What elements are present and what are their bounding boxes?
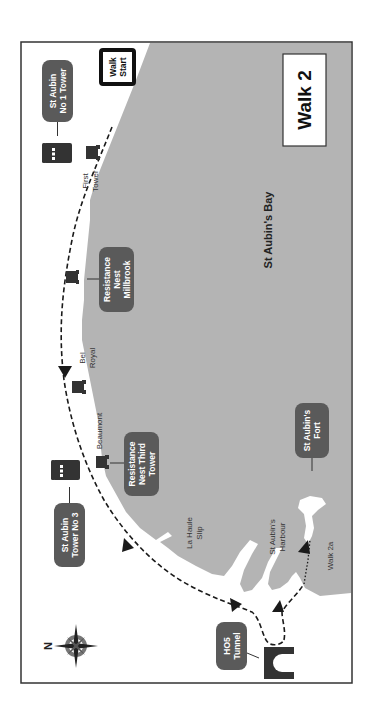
martello-tower-icon bbox=[42, 143, 72, 163]
callout-line: Fort bbox=[312, 422, 322, 439]
place-label-first-tower: Tower bbox=[91, 170, 100, 192]
walk-start-line2: Start bbox=[118, 57, 128, 77]
martello-tower-icon bbox=[51, 460, 80, 480]
walk-start-marker: Walk Start bbox=[101, 50, 134, 84]
walk-title-box: Walk 2 bbox=[283, 54, 326, 146]
callout-line: No 1 Tower bbox=[58, 68, 68, 114]
map-title: Walk 2 bbox=[294, 70, 315, 130]
callout-line: Tower No 3 bbox=[70, 512, 80, 557]
place-label-bel-royal: Bel bbox=[78, 352, 87, 364]
place-label-st-aubins-harbour: Harbour bbox=[278, 522, 287, 551]
callout-line: Tunnel bbox=[232, 632, 242, 659]
place-label-beaumont: Beaumont bbox=[95, 412, 104, 449]
place-label-st-aubins-harbour: St Aubin's bbox=[268, 519, 277, 554]
bunker-icon-bel-royal bbox=[72, 380, 86, 394]
callout-line: Millbrook bbox=[122, 260, 132, 298]
callout-line: Nest bbox=[112, 270, 122, 289]
compass-north-label: N bbox=[42, 642, 54, 650]
callout-line: St Aubin bbox=[60, 518, 70, 553]
place-label-la-haule-slip: La Haule bbox=[185, 516, 194, 549]
walk-start-line1: Walk bbox=[108, 57, 118, 77]
place-label-la-haule-slip: Slip bbox=[195, 526, 204, 540]
callout-line: Resistance bbox=[127, 441, 137, 486]
callout-line: Nest Third bbox=[137, 443, 147, 485]
place-label-first-tower: First bbox=[81, 172, 90, 188]
callout-line: St Aubin's bbox=[302, 410, 312, 452]
place-label-walk-2a: Walk 2a bbox=[326, 541, 335, 570]
callout-line: Resistance bbox=[102, 257, 112, 302]
bunker-icon-first-tower bbox=[86, 145, 100, 160]
bunker-icon-millbrook bbox=[66, 270, 79, 284]
callout-line: HO5 bbox=[222, 637, 232, 655]
callout-line: St Aubin bbox=[48, 74, 58, 109]
callout-line: Tower bbox=[147, 451, 157, 476]
walk-map: Walk Start Walk 2 St Aubin's Bay St Aubi… bbox=[0, 0, 374, 720]
tunnel-icon bbox=[264, 647, 294, 679]
place-label-bel-royal: Royal bbox=[88, 348, 97, 369]
bay-label: St Aubin's Bay bbox=[262, 191, 274, 269]
